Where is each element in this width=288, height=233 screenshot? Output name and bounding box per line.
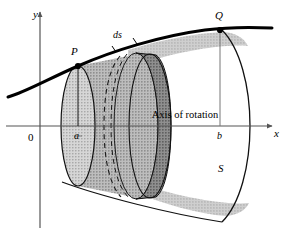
figure-container: y x 0 P Q ds a b S Axis of rotation <box>0 0 288 233</box>
label-point-q: Q <box>215 9 223 21</box>
label-ds: ds <box>113 29 122 40</box>
x-axis-label: x <box>273 127 279 139</box>
y-axis-label: y <box>32 8 38 20</box>
label-upper-limit: b <box>217 130 222 141</box>
ds-tick-right <box>133 38 137 44</box>
label-lower-limit: a <box>74 130 79 141</box>
label-surface-s: S <box>218 162 224 174</box>
origin-label: 0 <box>28 131 34 143</box>
point-p-dot <box>75 63 81 69</box>
point-q-dot <box>217 27 223 33</box>
surface-of-revolution-diagram: y x 0 P Q ds a b S Axis of rotation <box>0 0 288 233</box>
label-axis-of-rotation: Axis of rotation <box>152 109 219 120</box>
label-point-p: P <box>70 45 78 57</box>
